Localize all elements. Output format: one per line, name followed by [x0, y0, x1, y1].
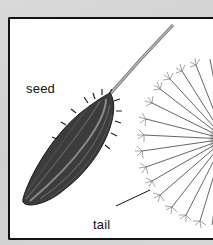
dandelion-head-icon	[135, 58, 213, 228]
seed-icon	[23, 89, 122, 205]
seed-label: seed	[26, 81, 55, 96]
tail-label: tail	[93, 217, 110, 232]
tail-pointer-line	[116, 190, 150, 206]
dandelion-illustration	[10, 19, 213, 238]
illustration-panel: seed tail	[8, 17, 213, 240]
